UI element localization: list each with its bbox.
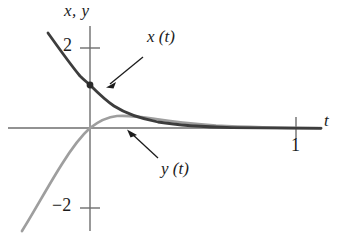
- vertical-axis-label: x, y: [64, 2, 90, 19]
- horizontal-axis-label: t: [324, 112, 329, 129]
- tick-label-y-2: 2: [63, 36, 72, 54]
- curve-label-y-t: y (t): [161, 160, 189, 177]
- tick-label-t-1: 1: [291, 136, 300, 154]
- arrow-y-t: [127, 130, 158, 159]
- tick-label-y-neg2: −2: [52, 196, 71, 214]
- figure-container: x, y t 2 −2 1 x (t) y (t): [0, 0, 341, 240]
- marker-point-dot: [87, 82, 94, 89]
- curve-label-x-t: x (t): [147, 28, 175, 45]
- curve-x-t: [48, 33, 321, 128]
- arrow-x-t: [106, 57, 143, 89]
